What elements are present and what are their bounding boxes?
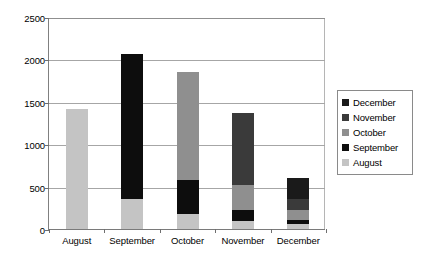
legend-swatch-icon: [342, 144, 349, 151]
x-axis-tick-mark: [49, 229, 50, 233]
bar-segment[interactable]: [177, 72, 199, 180]
legend-item[interactable]: September: [342, 140, 409, 155]
bar-group[interactable]: [66, 18, 88, 229]
legend-swatch-icon: [342, 159, 349, 166]
x-axis-tick-mark: [326, 229, 327, 233]
bar-group[interactable]: [232, 18, 254, 229]
x-axis-tick-mark: [271, 229, 272, 233]
bar-stack[interactable]: [66, 109, 88, 229]
bar-segment[interactable]: [287, 224, 309, 229]
x-axis-tick-label: December: [277, 235, 320, 246]
legend-swatch-icon: [342, 99, 349, 106]
legend-item[interactable]: October: [342, 125, 409, 140]
bar-group[interactable]: [121, 18, 143, 229]
bar-stack[interactable]: [177, 72, 199, 229]
x-axis-tick-mark: [160, 229, 161, 233]
bar-segment[interactable]: [177, 214, 199, 229]
bar-segment[interactable]: [287, 199, 309, 211]
legend-item-label: November: [353, 113, 396, 123]
x-axis-tick-label: August: [62, 235, 91, 246]
y-axis-tick-label: 1500: [24, 97, 45, 108]
x-axis-tick-mark: [215, 229, 216, 233]
bar-stack[interactable]: [287, 178, 309, 229]
y-axis-tick-label: 2000: [24, 55, 45, 66]
bar-segment[interactable]: [232, 221, 254, 229]
x-axis-tick-mark: [104, 229, 105, 233]
bar-segment[interactable]: [287, 178, 309, 198]
bar-group[interactable]: [287, 18, 309, 229]
bar-stack[interactable]: [232, 113, 254, 229]
bar-group[interactable]: [177, 18, 199, 229]
bar-segment[interactable]: [177, 180, 199, 214]
x-axis-tick-label: November: [221, 235, 264, 246]
y-axis-tick-label: 500: [29, 182, 45, 193]
bar-stack[interactable]: [121, 54, 143, 229]
legend-item-label: August: [353, 158, 382, 168]
legend-item[interactable]: August: [342, 155, 409, 170]
bar-segment[interactable]: [287, 210, 309, 219]
x-axis-tick-label: September: [109, 235, 155, 246]
legend-swatch-icon: [342, 114, 349, 121]
bar-segment[interactable]: [232, 185, 254, 210]
bar-segment[interactable]: [66, 109, 88, 229]
bar-segment[interactable]: [121, 54, 143, 199]
legend-item-label: October: [353, 128, 386, 138]
y-axis-tick-label: 1000: [24, 140, 45, 151]
bar-segment[interactable]: [232, 113, 254, 185]
plot-area: 05001000150020002500 AugustSeptemberOcto…: [48, 18, 325, 230]
legend-swatch-icon: [342, 129, 349, 136]
x-axis-tick-label: October: [171, 235, 204, 246]
chart-legend: DecemberNovemberOctoberSeptemberAugust: [337, 90, 413, 175]
legend-item-label: December: [353, 98, 396, 108]
legend-item-label: September: [353, 143, 398, 153]
stacked-column-chart: 05001000150020002500 AugustSeptemberOcto…: [0, 0, 425, 264]
bar-series-layer: [49, 18, 325, 229]
bar-segment[interactable]: [232, 210, 254, 221]
legend-item[interactable]: December: [342, 95, 409, 110]
y-axis-tick-label: 2500: [24, 13, 45, 24]
legend-item[interactable]: November: [342, 110, 409, 125]
bar-segment[interactable]: [121, 199, 143, 229]
